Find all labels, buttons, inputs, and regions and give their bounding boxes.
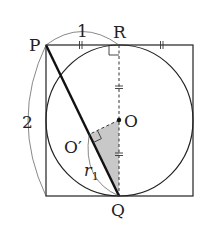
label-O: O — [124, 111, 138, 131]
point-O — [117, 118, 121, 122]
label-side-length: 2 — [22, 112, 33, 132]
label-P: P — [29, 35, 40, 55]
segment-PQ — [46, 45, 119, 196]
label-r-subscript: 1 — [92, 170, 99, 183]
label-O-prime: O′ — [64, 137, 82, 157]
label-top-length: 1 — [77, 21, 88, 41]
right-angle-mark-R — [109, 45, 119, 55]
geometry-diagram: P R 1 2 O O′ Q r1 — [0, 0, 207, 227]
label-Q: Q — [111, 200, 125, 220]
label-r1: r1 — [84, 161, 99, 183]
label-R: R — [113, 22, 127, 42]
diagram-canvas: P R 1 2 O O′ Q r1 — [0, 0, 207, 227]
